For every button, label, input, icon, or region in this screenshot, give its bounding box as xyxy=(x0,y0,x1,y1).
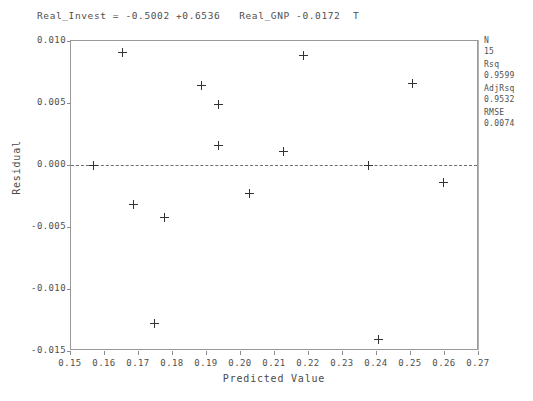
stat-value: 0.9532 xyxy=(484,95,532,106)
y-tick-label: 0.000 xyxy=(37,159,66,169)
data-point-marker xyxy=(214,100,223,109)
data-point-marker xyxy=(214,141,223,150)
data-point-marker xyxy=(408,79,417,88)
x-tick-mark xyxy=(206,351,207,355)
stat-label: Rsq xyxy=(484,60,532,71)
x-tick-mark xyxy=(410,351,411,355)
stat-label: N xyxy=(484,36,532,47)
data-point-marker xyxy=(364,161,373,170)
y-tick-label: -0.010 xyxy=(31,283,66,293)
residual-plot: Real_Invest = -0.5002 +0.6536 Real_GNP -… xyxy=(0,0,533,401)
x-tick-label: 0.22 xyxy=(296,358,319,368)
x-tick-mark xyxy=(172,351,173,355)
data-point-marker xyxy=(279,147,288,156)
data-point-marker xyxy=(89,161,98,170)
stat-label: RMSE xyxy=(484,108,532,119)
x-tick-mark xyxy=(342,351,343,355)
x-tick-label: 0.24 xyxy=(364,358,387,368)
regression-equation-title: Real_Invest = -0.5002 +0.6536 Real_GNP -… xyxy=(37,10,359,21)
x-tick-label: 0.25 xyxy=(398,358,421,368)
data-point-marker xyxy=(197,81,206,90)
x-tick-label: 0.23 xyxy=(330,358,353,368)
x-tick-label: 0.15 xyxy=(58,358,81,368)
y-tick-label: 0.010 xyxy=(37,35,66,45)
zero-reference-line xyxy=(71,165,477,166)
y-tick-mark xyxy=(67,165,71,166)
x-tick-mark xyxy=(478,351,479,355)
x-tick-label: 0.19 xyxy=(194,358,217,368)
data-point-marker xyxy=(245,189,254,198)
stats-panel-divider xyxy=(478,40,479,350)
y-axis-title: Residual xyxy=(11,128,22,208)
x-tick-mark xyxy=(70,351,71,355)
stat-value: 0.9599 xyxy=(484,71,532,82)
x-tick-label: 0.21 xyxy=(262,358,285,368)
stat-value: 0.0074 xyxy=(484,119,532,130)
data-point-marker xyxy=(374,335,383,344)
data-point-marker xyxy=(150,319,159,328)
y-tick-label: -0.015 xyxy=(31,345,66,355)
x-tick-label: 0.16 xyxy=(92,358,115,368)
x-axis-title: Predicted Value xyxy=(70,373,478,384)
plot-area xyxy=(70,40,478,350)
x-tick-label: 0.18 xyxy=(160,358,183,368)
x-tick-label: 0.26 xyxy=(432,358,455,368)
x-tick-label: 0.27 xyxy=(466,358,489,368)
data-point-marker xyxy=(439,178,448,187)
y-tick-label: 0.005 xyxy=(37,97,66,107)
x-tick-mark xyxy=(274,351,275,355)
y-tick-mark xyxy=(67,227,71,228)
y-tick-label: -0.005 xyxy=(31,221,66,231)
data-point-marker xyxy=(299,51,308,60)
x-tick-mark xyxy=(308,351,309,355)
y-tick-mark xyxy=(67,103,71,104)
stat-label: AdjRsq xyxy=(484,84,532,95)
data-point-marker xyxy=(129,200,138,209)
stat-value: 15 xyxy=(484,47,532,58)
y-tick-mark xyxy=(67,41,71,42)
data-point-marker xyxy=(118,48,127,57)
x-tick-label: 0.20 xyxy=(228,358,251,368)
y-tick-mark xyxy=(67,289,71,290)
x-tick-label: 0.17 xyxy=(126,358,149,368)
x-tick-mark xyxy=(240,351,241,355)
x-tick-mark xyxy=(444,351,445,355)
x-tick-mark xyxy=(104,351,105,355)
data-point-marker xyxy=(160,213,169,222)
statistics-panel: N15Rsq0.9599AdjRsq0.9532RMSE0.0074 xyxy=(484,36,532,132)
x-tick-mark xyxy=(138,351,139,355)
x-tick-mark xyxy=(376,351,377,355)
